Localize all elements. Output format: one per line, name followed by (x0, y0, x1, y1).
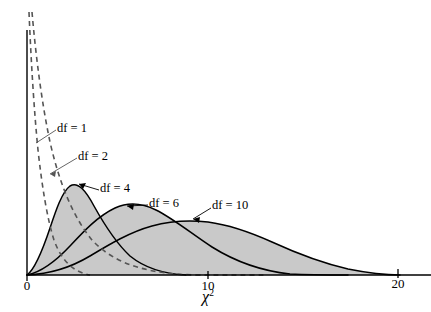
chart-plot-area (0, 0, 431, 312)
x-tick-label-20: 20 (383, 276, 413, 292)
x-tick-label-10: 10 (193, 278, 223, 294)
leader-line-df-10 (193, 208, 211, 219)
leader-line-df-1 (36, 130, 56, 143)
leader-line-df-2 (50, 158, 77, 174)
series-label-df-6: df = 6 (149, 196, 179, 211)
series-label-df-1: df = 1 (57, 121, 87, 136)
series-label-df-4: df = 4 (100, 181, 130, 196)
series-label-df-2: df = 2 (78, 149, 108, 164)
chi-square-distribution-chart: Relative frequency χ2 0 10 20 df = 1 df … (0, 0, 431, 312)
x-tick-label-0: 0 (12, 278, 42, 294)
series-label-df-10: df = 10 (212, 198, 248, 213)
